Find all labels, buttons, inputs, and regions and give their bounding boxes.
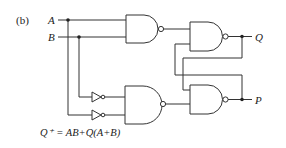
nand-gate-4-body bbox=[190, 85, 223, 114]
nand-gate-1-body bbox=[126, 15, 158, 43]
wire-b-branch bbox=[79, 37, 92, 97]
junction-dot-p bbox=[240, 98, 244, 102]
nand-gate-2-bubble bbox=[223, 34, 228, 39]
nand-gate-1 bbox=[126, 15, 164, 43]
nand-gate-4-bubble bbox=[223, 97, 228, 102]
nand-gate-2 bbox=[190, 22, 228, 51]
junction-dot-b bbox=[77, 35, 81, 39]
output-label-q: Q bbox=[255, 31, 263, 43]
logic-circuit-diagram: (b) A B Q bbox=[0, 0, 286, 148]
not-gate-2 bbox=[92, 110, 105, 120]
not-gate-1-bubble bbox=[101, 95, 105, 99]
wire-a-branch bbox=[68, 20, 92, 115]
nand-gate-1-bubble bbox=[158, 26, 163, 31]
nand-gate-3-bubble bbox=[160, 101, 165, 106]
input-label-b: B bbox=[48, 31, 55, 43]
nand-gate-3-body bbox=[125, 86, 162, 124]
junction-dot-a bbox=[66, 18, 70, 22]
nand-gate-2-body bbox=[190, 22, 223, 51]
not-gate-2-bubble bbox=[101, 113, 105, 117]
output-label-p: P bbox=[254, 94, 262, 106]
input-label-a: A bbox=[47, 14, 55, 26]
not-gate-1-body bbox=[92, 92, 101, 102]
not-gate-1 bbox=[92, 92, 105, 102]
panel-label: (b) bbox=[16, 14, 29, 27]
not-gate-2-body bbox=[92, 110, 101, 120]
nand-gate-4 bbox=[190, 85, 228, 114]
nand-gate-3 bbox=[125, 86, 166, 124]
next-state-equation: Q⁺ = AB+Q(A+B) bbox=[40, 127, 121, 139]
